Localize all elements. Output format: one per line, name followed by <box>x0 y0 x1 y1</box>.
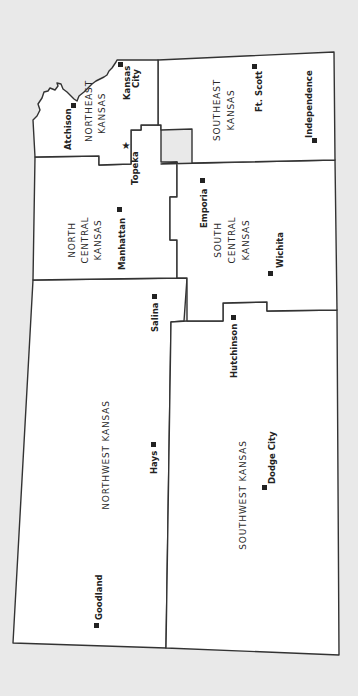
city-goodland[interactable]: Goodland <box>94 574 104 628</box>
svg-text:NORTH: NORTH <box>67 222 77 258</box>
svg-text:Hays: Hays <box>149 451 159 474</box>
svg-text:KANSAS: KANSAS <box>226 89 236 130</box>
svg-text:NORTHEAST: NORTHEAST <box>84 80 94 142</box>
kansas-region-map: NORTHEAST KANSAS NORTH CENTRAL KANSAS SO… <box>0 0 358 696</box>
svg-text:Wichita: Wichita <box>275 232 285 268</box>
svg-text:KANSAS: KANSAS <box>93 219 103 260</box>
label-northwest: NORTHWEST KANSAS <box>101 400 111 510</box>
svg-text:Dodge City: Dodge City <box>267 431 277 484</box>
city-square-icon <box>200 178 205 183</box>
svg-text:NORTHWEST KANSAS: NORTHWEST KANSAS <box>101 400 111 510</box>
svg-text:SOUTHWEST KANSAS: SOUTHWEST KANSAS <box>238 440 248 550</box>
city-square-icon <box>268 271 273 276</box>
label-southwest: SOUTHWEST KANSAS <box>238 440 248 550</box>
city-ft-scott[interactable]: Ft. Scott <box>252 64 264 112</box>
svg-text:Topeka: Topeka <box>130 151 140 185</box>
svg-text:Hutchinson: Hutchinson <box>229 324 239 378</box>
city-square-icon <box>94 623 99 628</box>
capital-star-icon: ★ <box>122 140 131 151</box>
label-south-central: SOUTH CENTRAL KANSAS <box>213 217 251 264</box>
svg-text:Atchison: Atchison <box>63 108 73 150</box>
city-square-icon <box>71 103 76 108</box>
region-southwest[interactable] <box>166 302 339 655</box>
svg-text:CENTRAL: CENTRAL <box>227 217 237 264</box>
city-hutchinson[interactable]: Hutchinson <box>229 315 239 378</box>
city-square-icon <box>252 64 257 69</box>
svg-text:City: City <box>131 69 141 88</box>
city-square-icon <box>231 315 236 320</box>
svg-text:Salina: Salina <box>150 302 160 332</box>
svg-text:Emporia: Emporia <box>199 188 209 228</box>
city-square-icon <box>152 294 157 299</box>
svg-text:Manhattan: Manhattan <box>117 218 127 270</box>
svg-text:SOUTHEAST: SOUTHEAST <box>212 79 222 141</box>
svg-text:SOUTH: SOUTH <box>213 222 223 258</box>
svg-text:Independence: Independence <box>304 70 314 138</box>
city-square-icon <box>117 207 122 212</box>
label-north-central: NORTH CENTRAL KANSAS <box>67 217 103 264</box>
city-square-icon <box>151 442 156 447</box>
svg-text:Goodland: Goodland <box>94 574 104 620</box>
svg-text:KANSAS: KANSAS <box>97 93 107 134</box>
svg-text:Ft. Scott: Ft. Scott <box>254 71 264 112</box>
svg-text:KANSAS: KANSAS <box>241 219 251 260</box>
city-square-icon <box>262 485 267 490</box>
svg-text:CENTRAL: CENTRAL <box>80 217 90 264</box>
